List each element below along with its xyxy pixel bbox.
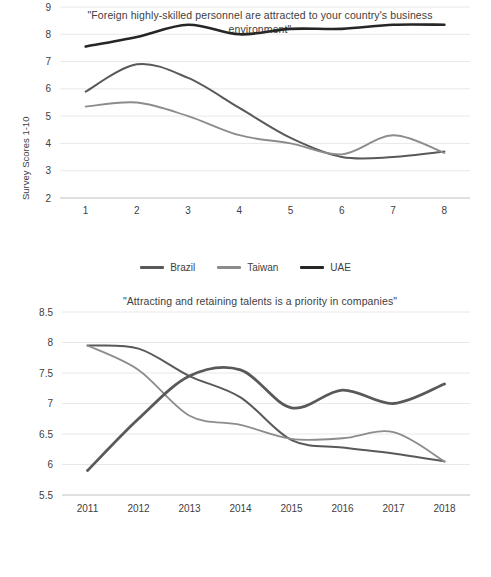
series-line-brazil (86, 64, 445, 159)
x-tick-label: 3 (185, 205, 191, 216)
y-tick-label: 9 (45, 2, 51, 13)
x-tick-label: 2012 (127, 503, 150, 514)
legend-label: Taiwan (247, 262, 278, 273)
y-tick-label: 3 (45, 165, 51, 176)
chart-attracting-retaining-talents: "Attracting and retaining talents is a p… (0, 290, 491, 577)
x-tick-label: 2 (134, 205, 140, 216)
y-tick-label: 8.5 (39, 307, 53, 318)
y-tick-label: 6.5 (39, 429, 53, 440)
legend-label: UAE (330, 262, 351, 273)
y-tick-label: 6 (45, 83, 51, 94)
y-tick-label: 6 (47, 459, 53, 470)
x-tick-label: 2015 (280, 503, 303, 514)
x-tick-label: 5 (288, 205, 294, 216)
x-tick-label: 2018 (433, 503, 456, 514)
legend-label: Brazil (170, 262, 195, 273)
legend-item-brazil[interactable]: Brazil (140, 262, 195, 273)
y-tick-label: 7 (47, 398, 53, 409)
x-tick-label: 4 (237, 205, 243, 216)
y-tick-label: 7 (45, 56, 51, 67)
x-tick-label: 2017 (382, 503, 405, 514)
x-tick-label: 2011 (77, 503, 99, 514)
x-tick-label: 2014 (229, 503, 252, 514)
y-tick-label: 4 (45, 138, 51, 149)
y-tick-label: 2 (45, 193, 51, 204)
x-tick-label: 7 (390, 205, 396, 216)
y-tick-label: 8 (47, 337, 53, 348)
legend-item-taiwan[interactable]: Taiwan (217, 262, 278, 273)
x-tick-label: 2013 (178, 503, 201, 514)
legend-swatch-icon (217, 266, 241, 268)
chart-legend: BrazilTaiwanUAE (0, 262, 491, 273)
series-line-taiwan (86, 102, 445, 154)
y-tick-label: 7.5 (39, 368, 53, 379)
legend-swatch-icon (300, 266, 324, 269)
x-tick-label: 1 (83, 205, 89, 216)
chart-page: "Foreign highly-skilled personnel are at… (0, 0, 491, 577)
y-tick-label: 5.5 (39, 490, 53, 501)
x-tick-label: 6 (339, 205, 345, 216)
x-tick-label: 8 (442, 205, 448, 216)
plot-area: 5.566.577.588.52011201220132014201520162… (0, 290, 491, 540)
plot-area: 2345678912345678 (0, 0, 491, 258)
y-tick-label: 8 (45, 29, 51, 40)
y-tick-label: 5 (45, 111, 51, 122)
legend-swatch-icon (140, 266, 164, 269)
x-tick-label: 2016 (331, 503, 354, 514)
series-line-uae (86, 24, 445, 46)
chart-foreign-highly-skilled-personnel: "Foreign highly-skilled personnel are at… (0, 0, 491, 290)
legend-item-uae[interactable]: UAE (300, 262, 351, 273)
